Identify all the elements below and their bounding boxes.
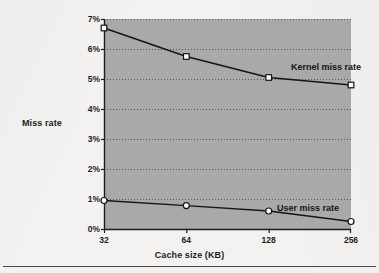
y-tick-label-3: 3% — [78, 134, 100, 144]
y-tick-label-1: 1% — [78, 194, 100, 204]
y-tick-label-5: 5% — [78, 74, 100, 84]
y-tick-label-7: 7% — [78, 14, 100, 24]
data-point-kernel-64 — [184, 54, 190, 60]
y-tick-label-4: 4% — [78, 104, 100, 114]
data-point-user-256 — [348, 219, 354, 225]
data-point-user-128 — [266, 208, 272, 214]
y-axis-title: Miss rate — [22, 118, 62, 128]
y-tick-label-0: 0% — [78, 224, 100, 234]
series-label-kernel-miss-rate: Kernel miss rate — [291, 62, 361, 72]
data-point-kernel-256 — [348, 82, 354, 88]
x-tick-label-128: 128 — [262, 235, 276, 245]
data-point-kernel-32 — [101, 25, 107, 31]
data-point-user-64 — [183, 203, 189, 209]
chart-figure: Miss rate Cache size (KB) 7% 6% 5% 4% 3%… — [0, 0, 379, 273]
data-point-user-32 — [101, 198, 107, 204]
data-point-kernel-128 — [266, 75, 272, 81]
x-axis-title: Cache size (KB) — [0, 250, 379, 260]
x-tick-label-32: 32 — [99, 235, 108, 245]
y-tick-label-2: 2% — [78, 164, 100, 174]
series-label-user-miss-rate: User miss rate — [277, 203, 339, 213]
y-tick-label-6: 6% — [78, 44, 100, 54]
page-bottom-rule — [3, 266, 376, 267]
x-tick-label-256: 256 — [344, 235, 358, 245]
plot-area — [0, 0, 379, 273]
x-tick-label-64: 64 — [182, 235, 191, 245]
